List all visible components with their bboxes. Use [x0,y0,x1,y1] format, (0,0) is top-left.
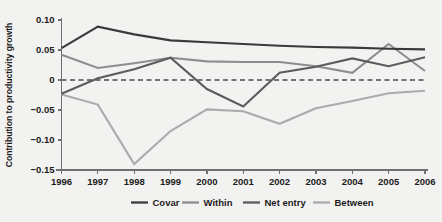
y-tick-label: −0.15 [30,164,55,175]
x-tick-label: 2005 [378,176,400,187]
legend-label-net-entry: Net entry [265,197,307,208]
y-axis-title: Contribution to productivity growth [4,23,14,168]
chart-figure: 0.100.050−0.05−0.10−0.15 199619971998199… [0,0,442,222]
line-chart: 0.100.050−0.05−0.10−0.15 199619971998199… [0,0,442,222]
legend-label-between: Between [335,197,374,208]
x-tick-label: 1999 [160,176,181,187]
x-tick-label: 2001 [233,176,255,187]
y-axis-title-text: Contribution to productivity growth [4,23,14,168]
y-tick-label: 0.10 [36,14,55,25]
y-tick-label: 0 [49,74,54,85]
y-tick-label: −0.10 [30,134,54,145]
y-tick-label: 0.05 [36,44,55,55]
x-tick-label: 2006 [414,176,435,187]
x-tick-label: 2002 [269,176,290,187]
x-tick-label: 2000 [196,176,217,187]
x-tick-label: 1997 [87,176,108,187]
legend-label-covar: Covar [153,197,180,208]
x-tick-label: 2003 [305,176,326,187]
legend-label-within: Within [204,197,233,208]
x-tick-label: 2004 [342,176,364,187]
y-tick-label: −0.05 [30,104,55,115]
x-tick-label: 1996 [51,176,72,187]
x-tick-label: 1998 [124,176,145,187]
